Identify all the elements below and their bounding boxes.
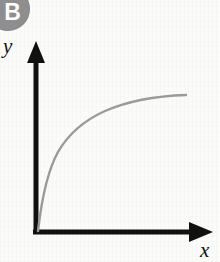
- data-curve-saturating: [38, 95, 186, 231]
- panel-badge-label: B: [4, 1, 21, 24]
- y-axis-arrowhead: [27, 41, 45, 63]
- plot-area: [0, 0, 220, 262]
- y-axis-label: y: [3, 36, 12, 57]
- figure-panel: B y x: [0, 0, 220, 262]
- x-axis-label: x: [200, 240, 209, 261]
